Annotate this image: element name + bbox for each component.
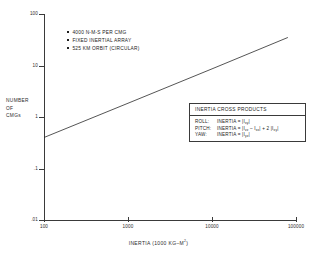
data-curve-layer — [0, 0, 317, 257]
series-line-cmg-count — [44, 37, 288, 137]
chart-figure: .01.1110100 100100010000100000 NUMBER OF… — [0, 0, 317, 257]
